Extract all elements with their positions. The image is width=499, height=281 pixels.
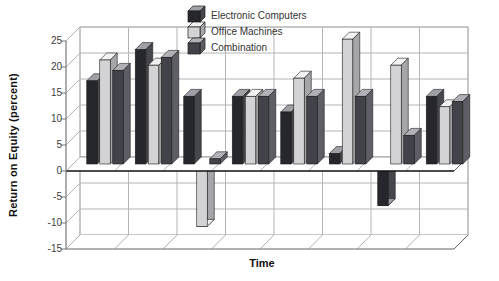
legend-label-electronic-computers: Electronic Computers bbox=[211, 10, 307, 21]
bar-front bbox=[307, 96, 318, 164]
bar-front bbox=[245, 96, 256, 164]
bar-front bbox=[135, 50, 146, 164]
bar-side bbox=[317, 89, 324, 164]
y-tick-label: 5 bbox=[22, 139, 62, 151]
legend-cube-front bbox=[188, 43, 200, 54]
chart-figure: Return on Equity (percent) Time 25201510… bbox=[0, 0, 499, 281]
bar-side bbox=[366, 89, 373, 164]
y-tick-label: 15 bbox=[22, 87, 62, 99]
legend-cube-front bbox=[188, 11, 200, 22]
y-tick-label: -5 bbox=[22, 191, 62, 203]
bar-front bbox=[391, 65, 402, 164]
bar-front bbox=[452, 102, 463, 164]
bar-front bbox=[210, 159, 221, 164]
legend-label-office-machines: Office Machines bbox=[211, 26, 283, 37]
bar-side bbox=[194, 89, 201, 164]
bar-side bbox=[123, 63, 130, 164]
bar-front bbox=[404, 135, 415, 164]
bar-side bbox=[172, 50, 179, 164]
y-tick-label: -10 bbox=[22, 217, 62, 229]
bar-front bbox=[342, 39, 353, 164]
bar-front bbox=[281, 112, 292, 164]
bar-front bbox=[113, 70, 124, 164]
y-tick-label: 10 bbox=[22, 113, 62, 125]
bar-front bbox=[184, 96, 195, 164]
bar-front bbox=[87, 81, 98, 164]
y-tick-label: 20 bbox=[22, 61, 62, 73]
y-tick-label: 25 bbox=[22, 35, 62, 47]
bar-front bbox=[258, 96, 269, 164]
bar-front bbox=[161, 57, 172, 164]
legend-cube-front bbox=[188, 27, 200, 38]
bar-front bbox=[294, 78, 305, 164]
y-axis-title: Return on Equity (percent) bbox=[7, 35, 21, 255]
bar-front bbox=[329, 154, 340, 164]
legend-label-combination: Combination bbox=[211, 42, 267, 53]
y-tick-label: -15 bbox=[22, 243, 62, 255]
bar-front bbox=[197, 164, 208, 226]
bar-front bbox=[355, 96, 366, 164]
bar-front bbox=[148, 65, 159, 164]
x-axis-title: Time bbox=[212, 257, 312, 269]
bar-side bbox=[269, 89, 276, 164]
bar-front bbox=[100, 60, 111, 164]
bar-front bbox=[439, 107, 450, 164]
bar-front bbox=[232, 96, 243, 164]
y-tick-label: 0 bbox=[22, 165, 62, 177]
bar-front bbox=[426, 96, 437, 164]
bar-side bbox=[463, 95, 470, 164]
